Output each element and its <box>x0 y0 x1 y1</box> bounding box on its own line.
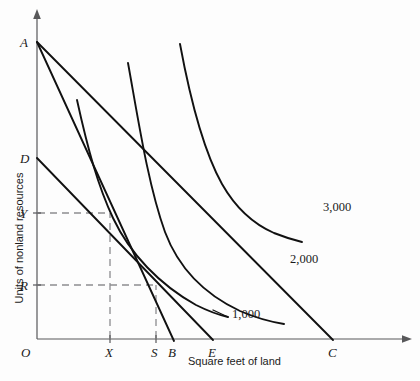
isoquant-curves-group <box>77 44 302 324</box>
point-label-S: S <box>151 345 158 360</box>
point-label-C: C <box>328 345 337 360</box>
point-label-A: A <box>19 35 28 50</box>
isocost-line-AC <box>37 42 333 340</box>
point-label-B: B <box>168 345 176 360</box>
origin-label: O <box>21 345 31 360</box>
diagram-canvas: 1,000 2,000 3,000 A D Y R X S B E C O <box>0 0 420 381</box>
guide-lines-group <box>38 213 156 338</box>
isocost-line-DE <box>37 158 213 340</box>
y-axis-title: Units of nonland resources <box>13 143 25 333</box>
isoquant-curve-3000 <box>180 44 302 242</box>
isoquant-figure: 1,000 2,000 3,000 A D Y R X S B E C O Sq… <box>0 0 420 381</box>
isoquant-label-1000: 1,000 <box>232 307 260 321</box>
isoquant-label-2000: 2,000 <box>290 252 318 266</box>
isocost-lines-group <box>37 42 333 341</box>
axes-group <box>33 9 412 343</box>
x-axis-title: Square feet of land <box>188 355 281 367</box>
ticks-group <box>33 213 156 343</box>
isoquant-labels-group: 1,000 2,000 3,000 <box>213 200 351 321</box>
point-label-X: X <box>104 345 114 360</box>
y-axis-arrow-icon <box>33 9 41 19</box>
isoquant-label-3000: 3,000 <box>323 200 351 214</box>
x-axis-arrow-icon <box>402 335 412 343</box>
